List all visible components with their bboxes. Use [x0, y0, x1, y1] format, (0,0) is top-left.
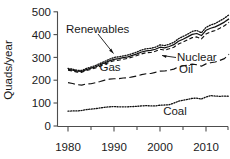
series-label-gas: Gas: [99, 61, 120, 73]
y-tick-label-100: 100: [32, 97, 51, 109]
x-tick-label-2000: 2000: [147, 141, 173, 153]
x-tick-label-2010: 2010: [193, 141, 219, 153]
x-tick-label-1980: 1980: [55, 141, 81, 153]
y-axis-title: Quads/year: [2, 40, 14, 100]
y-tick-label-500: 500: [32, 6, 51, 18]
y-tick-label-0: 0: [45, 120, 51, 132]
energy-consumption-chart: Quads/year 500 400 300 200 100 0 1980 19…: [0, 0, 230, 159]
series-label-renewables: Renewables: [66, 23, 130, 35]
chart-canvas: Quads/year 500 400 300 200 100 0 1980 19…: [0, 0, 230, 159]
y-tick-label-300: 300: [32, 52, 51, 64]
series-label-coal: Coal: [163, 105, 187, 117]
nuclear-leader-arrow: [162, 55, 167, 58]
x-tick-label-1990: 1990: [101, 141, 127, 153]
x-tick-marks: [68, 127, 228, 132]
y-tick-label-200: 200: [32, 74, 51, 86]
series-curve-coal: [68, 96, 229, 112]
y-tick-label-400: 400: [32, 29, 51, 41]
y-tick-marks: [54, 12, 58, 126]
series-label-oil: Oil: [179, 63, 193, 75]
series-label-nuclear: Nuclear: [177, 51, 217, 63]
